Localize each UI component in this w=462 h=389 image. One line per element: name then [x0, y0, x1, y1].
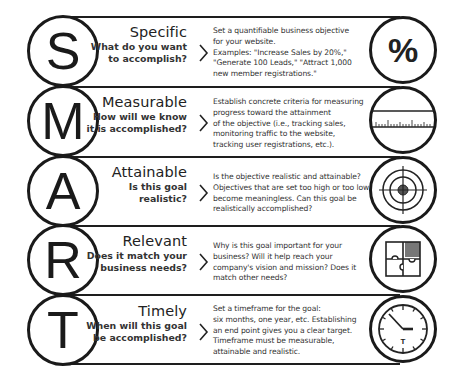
description-relevant: Why is this goal important for your busi…: [213, 241, 373, 284]
description-line: business? Will it help reach your: [213, 252, 373, 263]
puzzle-icon: [372, 228, 434, 290]
chevron-right-icon: [199, 44, 209, 62]
description-line: new member registrations.": [213, 69, 373, 80]
description-line: Establish concrete criteria for measurin…: [213, 97, 373, 108]
heading-attainable: Attainable: [57, 164, 187, 181]
question-line-1: Is this goal: [57, 181, 187, 193]
description-measurable: Establish concrete criteria for measurin…: [213, 97, 373, 151]
description-line: Timeframe must be measurable,: [213, 336, 373, 347]
question-line-2: be accomplished?: [57, 332, 187, 344]
description-line: Examples: "Increase Sales by 20%,": [213, 48, 373, 59]
description-line: "Generate 100 Leads," "Attract 1,000: [213, 58, 373, 69]
description-line: attainable and realistic.: [213, 347, 373, 358]
description-line: monitoring traffic to the website,: [213, 129, 373, 140]
description-line: become meaningless. Can this goal be: [213, 194, 373, 205]
description-line: realistically accomplished?: [213, 204, 373, 215]
heading-block-attainable: Attainable Is this goal realistic?: [57, 164, 187, 205]
description-line: for your website.: [213, 37, 373, 48]
clock-icon: T: [372, 298, 434, 360]
chevron-right-icon: [199, 323, 209, 341]
divider-line: [70, 156, 400, 158]
ruler-icon: [372, 89, 434, 151]
heading-measurable: Measurable: [57, 94, 187, 111]
percent-icon: %: [388, 31, 418, 70]
heading-block-timely: Timely When will this goal be accomplish…: [57, 303, 187, 344]
divider-line: [70, 86, 400, 88]
question-line-2: realistic?: [57, 193, 187, 205]
heading-block-measurable: Measurable How will we know it is accomp…: [57, 94, 187, 135]
divider-line: [70, 225, 400, 227]
question-line-1: When will this goal: [57, 320, 187, 332]
target-icon: [372, 159, 434, 221]
divider-line: [70, 294, 400, 296]
divider-line: [70, 363, 400, 365]
description-line: of the objective (i.e., tracking sales,: [213, 119, 373, 130]
question-line-2: business needs?: [57, 262, 187, 274]
description-line: company's vision and mission? Does it: [213, 263, 373, 274]
heading-timely: Timely: [57, 303, 187, 320]
description-line: progress toward the attainment: [213, 108, 373, 119]
chevron-right-icon: [199, 253, 209, 271]
icon-circle-puzzle: [369, 225, 437, 293]
chevron-right-icon: [199, 114, 209, 132]
description-specific: Set a quantifiable business objective fo…: [213, 26, 373, 80]
icon-circle-ruler: [369, 86, 437, 154]
heading-block-relevant: Relevant Does it match your business nee…: [57, 233, 187, 274]
description-line: Set a timeframe for the goal:: [213, 304, 373, 315]
description-line: an end point gives you a clear target.: [213, 326, 373, 337]
description-line: tracking user registrations, etc.).: [213, 140, 373, 151]
description-line: Is the objective realistic and attainabl…: [213, 172, 373, 183]
question-line-1: Does it match your: [57, 250, 187, 262]
question-line-1: What do you want: [57, 41, 187, 53]
icon-circle-percent: %: [369, 16, 437, 84]
question-line-1: How will we know: [57, 111, 187, 123]
divider-line: [70, 16, 400, 18]
question-line-2: to accomplish?: [57, 53, 187, 65]
description-line: Objectives that are set too high or too …: [213, 183, 373, 194]
description-attainable: Is the objective realistic and attainabl…: [213, 172, 373, 215]
heading-specific: Specific: [57, 24, 187, 41]
description-line: Why is this goal important for your: [213, 241, 373, 252]
clock-label: T: [401, 337, 406, 346]
description-line: Set a quantifiable business objective: [213, 26, 373, 37]
description-line: six months, one year, etc. Establishing: [213, 315, 373, 326]
question-line-2: it is accomplished?: [57, 123, 187, 135]
heading-block-specific: Specific What do you want to accomplish?: [57, 24, 187, 65]
icon-circle-clock: T: [369, 295, 437, 363]
description-line: match other needs?: [213, 273, 373, 284]
chevron-right-icon: [199, 184, 209, 202]
heading-relevant: Relevant: [57, 233, 187, 250]
description-timely: Set a timeframe for the goal: six months…: [213, 304, 373, 358]
icon-circle-target: [369, 156, 437, 224]
